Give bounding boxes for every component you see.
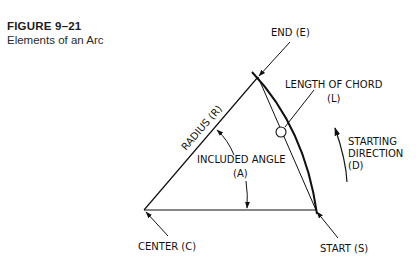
start-arrow [317,212,338,238]
radius-line [144,77,258,210]
starting-direction-arrow [335,128,347,182]
center-arrow [146,212,168,236]
label-direction: DIRECTION [348,148,403,159]
label-length-of-chord-symbol: (L) [327,93,340,104]
end-arrow [259,42,290,76]
label-start: START (S) [320,243,368,254]
label-end: END (E) [271,27,310,38]
label-radius: RADIUS (R) [179,103,224,152]
label-direction-symbol: (D) [348,160,364,171]
arc-diagram: END (E) LENGTH OF CHORD (L) RADIUS (R) I… [0,0,419,264]
label-included-angle-symbol: (A) [233,168,248,179]
label-included-angle: INCLUDED ANGLE [197,154,286,165]
chord-line [258,77,316,210]
angle-arrow-upper [217,130,234,155]
label-length-of-chord: LENGTH OF CHORD [285,79,383,90]
label-center: CENTER (C) [138,241,196,252]
arc-curve [252,72,317,214]
label-starting: STARTING [348,136,397,147]
angle-arrow-lower [246,181,247,208]
chord-leader [285,90,314,127]
chord-marker-circle [276,127,286,137]
